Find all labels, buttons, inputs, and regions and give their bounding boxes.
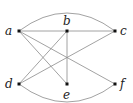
vertex-label-d: d (5, 77, 13, 91)
vertex-d (18, 83, 21, 86)
vertex-c (114, 30, 117, 33)
vertex-label-e: e (63, 88, 70, 102)
graph-diagram: abcdef (0, 0, 133, 103)
vertex-label-b: b (63, 14, 71, 28)
vertex-f (114, 83, 117, 86)
vertex-label-a: a (5, 24, 12, 38)
vertex-e (66, 83, 69, 86)
vertex-label-f: f (119, 77, 127, 91)
vertex-b (66, 30, 69, 33)
vertex-label-c: c (120, 24, 127, 38)
vertex-a (18, 30, 21, 33)
